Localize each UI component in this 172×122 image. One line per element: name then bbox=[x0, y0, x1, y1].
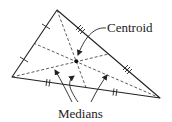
tick-ab-1 bbox=[42, 24, 50, 29]
medians-arrow-middle bbox=[70, 76, 78, 102]
median-from-a bbox=[57, 10, 86, 88]
centroid-label: Centroid bbox=[107, 20, 153, 35]
centroid-dot bbox=[74, 59, 78, 63]
tick-ab-2 bbox=[20, 57, 28, 62]
medians-label: Medians bbox=[58, 106, 103, 121]
median-diagram: Centroid Medians bbox=[0, 0, 172, 122]
tick-bc-2b bbox=[116, 89, 117, 96]
tick-bc-1a bbox=[46, 79, 47, 86]
tick-bc-2a bbox=[113, 89, 114, 96]
tick-bc-1b bbox=[49, 80, 50, 87]
median-from-b bbox=[12, 54, 109, 77]
